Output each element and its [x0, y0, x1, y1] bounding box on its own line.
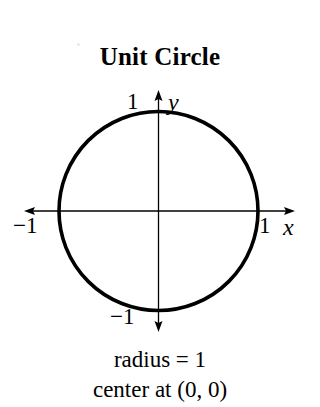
y-axis-tick-label-negative-one: −1 [110, 305, 134, 328]
caption-center: center at (0, 0) [0, 378, 320, 401]
x-axis [24, 207, 295, 215]
x-axis-name-label: x [283, 215, 294, 239]
x-axis-tick-label-negative-one: −1 [13, 214, 37, 237]
x-axis-tick-label-positive-one: 1 [259, 214, 271, 237]
unit-circle-figure: Unit Circle 1 y −1 1 x −1 radius = 1 cen… [0, 0, 320, 407]
y-axis-tick-label-positive-one: 1 [127, 90, 139, 113]
caption-radius: radius = 1 [0, 348, 320, 371]
unit-circle-plot [0, 0, 320, 407]
y-axis-name-label: y [168, 90, 179, 114]
